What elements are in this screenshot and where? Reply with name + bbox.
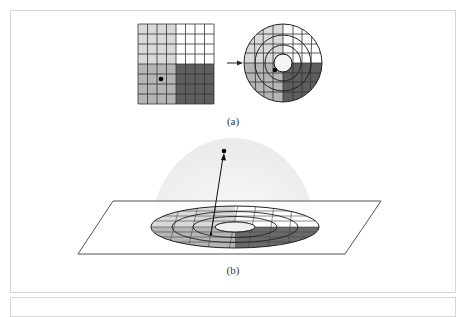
sphere-point-icon bbox=[222, 149, 227, 154]
caption-b: (b) bbox=[227, 264, 240, 277]
right-arrow-icon bbox=[227, 61, 243, 66]
caption-a: (a) bbox=[227, 115, 240, 128]
sample-point-icon bbox=[159, 77, 164, 82]
square-grid bbox=[138, 24, 214, 104]
sample-point-icon bbox=[273, 68, 278, 73]
disc-grid bbox=[244, 24, 322, 102]
